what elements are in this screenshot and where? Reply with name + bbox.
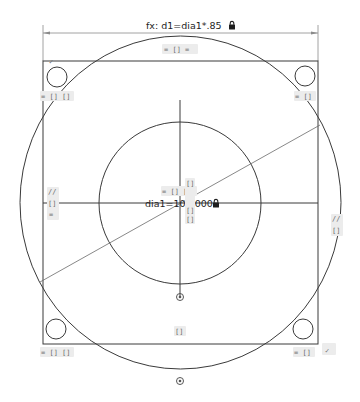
svg-text:[]: [] bbox=[186, 180, 194, 188]
tangent-check-bottom-right[interactable]: ✓ bbox=[322, 343, 336, 355]
svg-text:✓: ✓ bbox=[49, 58, 53, 66]
constraint-top-left[interactable]: = [] [] bbox=[40, 91, 74, 101]
constraint-bottom-mid[interactable]: [] bbox=[174, 326, 186, 336]
constraint-left-side[interactable]: // [] = bbox=[47, 187, 59, 220]
constraint-right-side[interactable]: // [] bbox=[331, 214, 343, 236]
svg-text:= [] []: = [] [] bbox=[41, 349, 71, 357]
svg-text:[]: [] bbox=[186, 216, 194, 224]
svg-text:[]: [] bbox=[186, 207, 194, 215]
corner-circle-bottom-left[interactable] bbox=[46, 319, 66, 339]
corner-circle-top-left[interactable] bbox=[47, 67, 67, 87]
center-dimension-label[interactable]: dia1=10.0000 bbox=[145, 198, 213, 209]
corner-circle-bottom-right[interactable] bbox=[293, 319, 313, 339]
svg-text:= []: = [] bbox=[294, 349, 311, 357]
constraint-top-edge[interactable]: = [] = bbox=[162, 44, 198, 54]
svg-text:= [] =: = [] = bbox=[164, 46, 189, 54]
svg-text:✓: ✓ bbox=[325, 347, 329, 355]
corner-circle-top-right[interactable] bbox=[295, 66, 315, 86]
constraint-center-stack[interactable]: [] [] [] bbox=[185, 178, 195, 224]
svg-text:[]: [] bbox=[175, 328, 183, 336]
constraint-top-right[interactable]: = [] bbox=[294, 91, 316, 101]
constraint-bottom-left[interactable]: = [] [] bbox=[40, 347, 74, 357]
svg-text:= []: = [] bbox=[295, 93, 312, 101]
svg-text:=: = bbox=[49, 211, 53, 219]
constraint-bottom-right[interactable]: = [] bbox=[293, 347, 315, 357]
svg-text:[]: [] bbox=[48, 200, 56, 208]
top-dimension[interactable]: fx: d1=dia1*.85 bbox=[43, 20, 318, 61]
arrow-left-icon bbox=[43, 32, 50, 35]
svg-text:[]: [] bbox=[332, 227, 340, 235]
svg-text://: // bbox=[48, 188, 56, 196]
svg-text:= [] []: = [] [] bbox=[41, 93, 71, 101]
lock-icon bbox=[229, 21, 235, 29]
center-dimension[interactable]: dia1=10.0000 bbox=[144, 198, 224, 209]
origin-icon[interactable] bbox=[177, 378, 184, 385]
top-dimension-label[interactable]: fx: d1=dia1*.85 bbox=[146, 20, 222, 31]
tangent-check-top-left[interactable]: ✓ bbox=[49, 58, 53, 66]
svg-text://: // bbox=[332, 215, 340, 223]
arrow-right-icon bbox=[311, 32, 318, 35]
